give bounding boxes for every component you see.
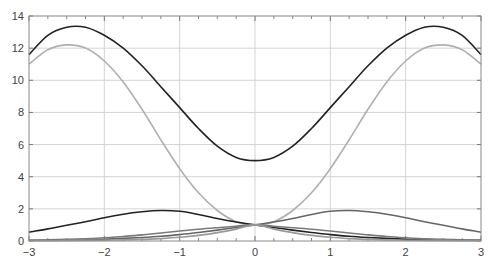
- line-chart: −3−2−10123 02468101214: [0, 0, 491, 268]
- y-tick-label: 12: [12, 42, 24, 54]
- x-tick-label: −2: [98, 246, 111, 258]
- y-tick-label: 10: [12, 74, 24, 86]
- y-tick-label: 6: [18, 139, 24, 151]
- y-tick-label: 4: [18, 171, 24, 183]
- x-tick-label: 0: [252, 246, 258, 258]
- y-tick-label: 2: [18, 203, 24, 215]
- x-tick-label: 1: [327, 246, 333, 258]
- y-tick-label: 14: [12, 10, 24, 22]
- x-tick-label: 2: [403, 246, 409, 258]
- x-tick-label: −1: [173, 246, 186, 258]
- x-tick-label: 3: [478, 246, 484, 258]
- y-tick-label: 8: [18, 106, 24, 118]
- plot-background: [0, 0, 491, 268]
- y-tick-label: 0: [18, 235, 24, 247]
- x-tick-label: −3: [23, 246, 36, 258]
